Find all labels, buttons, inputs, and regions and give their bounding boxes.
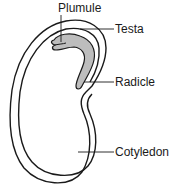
seed-diagram xyxy=(0,0,171,189)
cotyledon-label: Cotyledon xyxy=(115,146,169,158)
plumule-label: Plumule xyxy=(58,2,101,14)
embryo-shape xyxy=(51,34,94,89)
radicle-label: Radicle xyxy=(115,76,155,88)
testa-label: Testa xyxy=(115,23,144,35)
